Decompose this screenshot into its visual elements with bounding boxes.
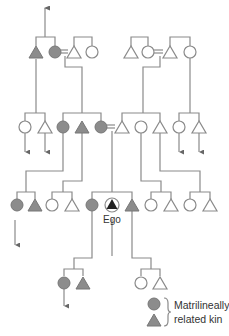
legend-triangle-icon xyxy=(147,314,161,326)
male-symbol xyxy=(153,121,167,133)
descent-lines xyxy=(15,8,210,306)
ego-symbol xyxy=(105,198,119,212)
male-symbol xyxy=(192,121,206,133)
female-matrilineal-symbol xyxy=(95,121,107,133)
male-matrilineal-symbol xyxy=(76,277,90,289)
male-symbol xyxy=(163,46,177,58)
male-matrilineal-symbol xyxy=(28,199,42,211)
generation-4 xyxy=(58,277,167,289)
female-matrilineal-symbol xyxy=(86,199,98,211)
generation-1 xyxy=(29,46,196,58)
female-symbol xyxy=(135,277,147,289)
female-symbol xyxy=(46,199,58,211)
male-symbol xyxy=(67,46,81,58)
male-symbol xyxy=(153,277,167,289)
male-matrilineal-symbol xyxy=(125,199,139,211)
male-symbol xyxy=(65,199,79,211)
female-symbol xyxy=(86,46,98,58)
generation-3: Ego xyxy=(11,198,217,225)
ego-label: Ego xyxy=(103,214,121,225)
kinship-diagram: Ego Matrilineally related kin xyxy=(0,0,229,336)
female-symbol xyxy=(145,199,157,211)
female-symbol xyxy=(135,121,147,133)
legend-line1: Matrilineally xyxy=(174,299,229,311)
male-symbol xyxy=(203,199,217,211)
female-symbol xyxy=(173,121,185,133)
legend-circle-icon xyxy=(148,298,160,310)
male-matrilineal-symbol xyxy=(75,121,89,133)
female-symbol xyxy=(142,46,154,58)
male-symbol xyxy=(164,199,178,211)
female-matrilineal-symbol xyxy=(57,121,69,133)
female-matrilineal-symbol xyxy=(11,199,23,211)
male-symbol xyxy=(38,121,52,133)
male-symbol xyxy=(115,121,129,133)
female-matrilineal-symbol xyxy=(49,46,61,58)
female-symbol xyxy=(184,46,196,58)
female-matrilineal-symbol xyxy=(58,277,70,289)
legend-line2: related kin xyxy=(174,313,223,325)
legend: Matrilineally related kin xyxy=(147,298,229,326)
male-matrilineal-symbol xyxy=(29,46,43,58)
female-symbol xyxy=(19,121,31,133)
marriage-signs xyxy=(61,50,163,128)
female-symbol xyxy=(184,199,196,211)
male-symbol xyxy=(124,46,138,58)
legend-brace xyxy=(164,298,171,326)
